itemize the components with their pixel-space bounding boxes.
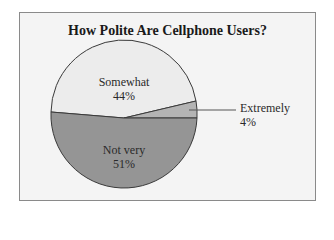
label-extremely: Extremely 4% bbox=[240, 101, 310, 129]
label-not-very-name: Not very bbox=[94, 143, 154, 157]
label-somewhat-pct: 44% bbox=[94, 89, 154, 103]
label-somewhat: Somewhat 44% bbox=[94, 75, 154, 103]
label-extremely-pct: 4% bbox=[240, 115, 310, 129]
label-not-very: Not very 51% bbox=[94, 143, 154, 171]
label-extremely-name: Extremely bbox=[240, 101, 310, 115]
label-somewhat-name: Somewhat bbox=[94, 75, 154, 89]
label-not-very-pct: 51% bbox=[94, 157, 154, 171]
